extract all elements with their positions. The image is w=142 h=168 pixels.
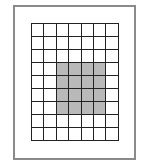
grid-cell — [32, 89, 44, 102]
grid-cell — [32, 24, 44, 37]
grid-cell — [106, 115, 118, 128]
grid-cell — [106, 128, 118, 141]
grid-cell — [44, 37, 56, 50]
grid-cell — [106, 50, 118, 63]
grid-cell — [106, 24, 118, 37]
grid-cell-shaded — [82, 76, 94, 89]
grid-cell — [32, 37, 44, 50]
grid-cell — [57, 37, 69, 50]
grid-cell — [106, 37, 118, 50]
grid-cell — [69, 37, 81, 50]
grid-cell-shaded — [94, 76, 106, 89]
diagram-canvas — [0, 0, 142, 168]
grid-cell — [44, 50, 56, 63]
grid-cell — [82, 50, 94, 63]
grid-cell — [106, 76, 118, 89]
grid-cell — [44, 76, 56, 89]
grid-cell — [69, 50, 81, 63]
grid-cell — [94, 128, 106, 141]
grid-cell-shaded — [57, 76, 69, 89]
grid-cell — [57, 115, 69, 128]
grid-cell — [57, 128, 69, 141]
grid-cell — [32, 102, 44, 115]
grid-cell — [82, 24, 94, 37]
grid-cell — [82, 128, 94, 141]
grid-cell-shaded — [69, 76, 81, 89]
grid-cell — [57, 24, 69, 37]
grid-cell — [44, 89, 56, 102]
cell-grid — [31, 23, 119, 141]
grid-cell — [32, 115, 44, 128]
grid-cell-shaded — [69, 89, 81, 102]
grid-cell — [69, 24, 81, 37]
grid-cell-shaded — [94, 102, 106, 115]
grid-cell-shaded — [57, 102, 69, 115]
grid-cell — [94, 115, 106, 128]
grid-cell — [44, 128, 56, 141]
grid-cell — [94, 50, 106, 63]
grid-cell — [106, 63, 118, 76]
grid-cell — [106, 102, 118, 115]
grid-cell — [44, 115, 56, 128]
grid-cell — [32, 50, 44, 63]
grid-cell — [69, 115, 81, 128]
grid-cell-shaded — [94, 89, 106, 102]
grid-cell — [32, 76, 44, 89]
grid-cell-shaded — [69, 102, 81, 115]
grid-cell — [44, 102, 56, 115]
grid-cell — [32, 128, 44, 141]
grid-cell — [44, 63, 56, 76]
grid-cell-shaded — [57, 89, 69, 102]
grid-cell-shaded — [82, 102, 94, 115]
grid-cell-shaded — [82, 89, 94, 102]
grid-cell — [82, 115, 94, 128]
grid-cell-shaded — [69, 63, 81, 76]
grid-cell — [82, 37, 94, 50]
grid-cell — [69, 128, 81, 141]
grid-cell — [94, 37, 106, 50]
grid-cell — [32, 63, 44, 76]
grid-cell — [44, 24, 56, 37]
grid-cell — [57, 50, 69, 63]
grid-cell-shaded — [94, 63, 106, 76]
grid-cell — [94, 24, 106, 37]
grid-cell — [106, 89, 118, 102]
grid-cell-shaded — [82, 63, 94, 76]
grid-cell-shaded — [57, 63, 69, 76]
